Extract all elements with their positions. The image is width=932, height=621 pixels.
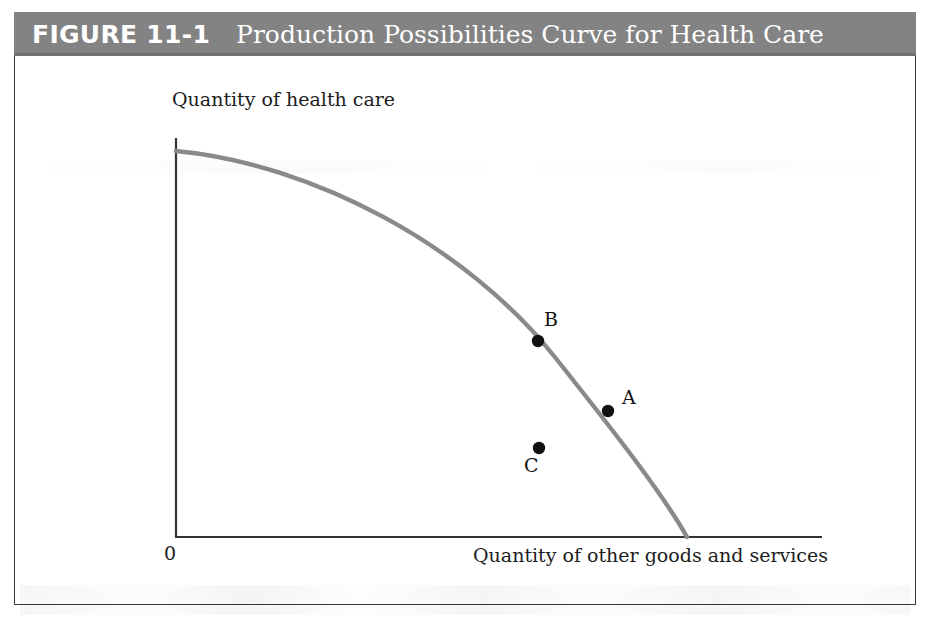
plot-area: Quantity of health care Quantity of othe… — [14, 56, 916, 605]
data-point-b — [532, 335, 544, 347]
y-axis-label: Quantity of health care — [172, 88, 395, 110]
production-possibilities-curve — [176, 151, 687, 537]
point-label-b: B — [544, 308, 558, 330]
chart-svg — [14, 56, 916, 605]
origin-label: 0 — [164, 542, 176, 564]
x-axis-label: Quantity of other goods and services — [473, 544, 828, 566]
figure-number: FIGURE 11-1 — [32, 20, 210, 49]
data-point-c — [533, 442, 545, 454]
point-label-c: C — [524, 454, 539, 476]
data-point-a — [602, 405, 614, 417]
figure-header-banner: FIGURE 11-1 Production Possibilities Cur… — [14, 12, 916, 56]
figure-root: FIGURE 11-1 Production Possibilities Cur… — [0, 0, 932, 621]
point-label-a: A — [622, 386, 636, 408]
figure-title: Production Possibilities Curve for Healt… — [236, 20, 824, 49]
